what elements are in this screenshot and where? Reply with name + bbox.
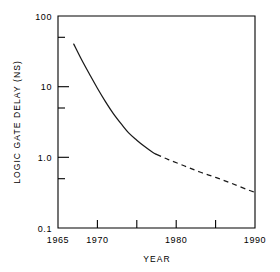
logic-gate-delay-chart: 100 10 1.0 0.1 1965 1970 1980 1990 YEAR …: [0, 0, 280, 272]
y-tick-label-1: 1.0: [38, 153, 52, 163]
x-tick-label-1965: 1965: [47, 235, 69, 245]
y-axis-title: LOGIC GATE DELAY (NS): [12, 60, 22, 184]
y-tick-label-01: 0.1: [38, 224, 52, 234]
y-tick-label-10: 10: [41, 82, 52, 92]
x-tick-label-1980: 1980: [165, 235, 187, 245]
x-tick-label-1970: 1970: [86, 235, 108, 245]
x-axis-title: YEAR: [143, 254, 171, 264]
x-tick-label-1990: 1990: [244, 235, 266, 245]
y-tick-label-100: 100: [35, 12, 52, 22]
